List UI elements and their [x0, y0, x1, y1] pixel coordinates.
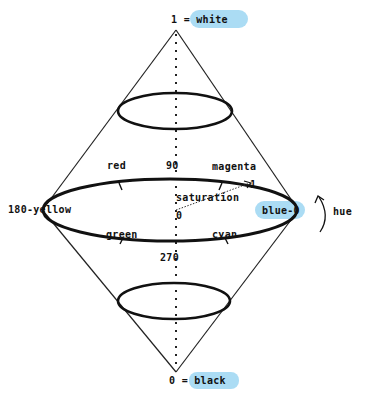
label-hue-270: 270 [160, 252, 179, 263]
label-hue: hue [333, 206, 352, 217]
label-green: green [106, 229, 138, 240]
label-hue-90: 90 [166, 160, 179, 171]
hue-arrow-icon [319, 197, 325, 232]
label-saturation-zero: 0 [176, 210, 182, 221]
hue-arrowhead-icon [315, 196, 324, 203]
label-black: 0 = black [169, 375, 226, 386]
label-magenta: magenta [212, 161, 256, 172]
label-hue-180-yellow: 180-yellow [8, 204, 72, 215]
hsv-double-cone-diagram: 1 = white 0 = black 90 270 180-yellow bl… [0, 0, 371, 402]
label-saturation-one: 1 [250, 179, 256, 190]
label-saturation: saturation [176, 192, 239, 203]
label-cyan: cyan [212, 229, 237, 240]
lower-cross-section [118, 283, 230, 319]
cone-outline [44, 30, 297, 372]
label-red: red [107, 160, 126, 171]
label-white: 1 = white [171, 14, 228, 25]
label-blue-0: blue-0 [262, 205, 300, 216]
